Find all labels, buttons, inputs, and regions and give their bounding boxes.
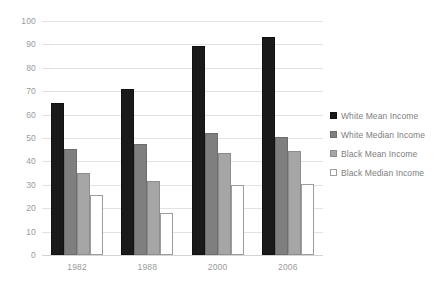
bar-chart: 0102030405060708090100 1982198820002006 … xyxy=(0,0,442,287)
bar-2000-series-0[interactable] xyxy=(192,46,205,255)
y-tick-label-80: 80 xyxy=(2,64,36,73)
bar-2006-series-0[interactable] xyxy=(262,37,275,255)
plot-area xyxy=(42,21,323,255)
x-tick-label-2000: 2000 xyxy=(208,263,228,272)
bar-1982-series-1[interactable] xyxy=(64,149,77,255)
y-tick-label-30: 30 xyxy=(2,181,36,190)
x-tick-label-1988: 1988 xyxy=(138,263,158,272)
bar-1988-series-2[interactable] xyxy=(147,181,160,255)
bar-2006-series-3[interactable] xyxy=(301,184,314,255)
legend-swatch-icon-0 xyxy=(330,112,337,119)
legend-item-0[interactable]: White Mean Income xyxy=(330,106,438,125)
y-tick-label-70: 70 xyxy=(2,87,36,96)
legend-label-2: Black Mean Income xyxy=(341,149,417,159)
bar-group-2006 xyxy=(262,21,314,255)
legend-label-0: White Mean Income xyxy=(341,111,418,121)
bar-2000-series-1[interactable] xyxy=(205,133,218,255)
bar-1988-series-1[interactable] xyxy=(134,144,147,255)
y-axis: 0102030405060708090100 xyxy=(0,21,36,255)
bar-1988-series-3[interactable] xyxy=(160,213,173,255)
bar-1982-series-3[interactable] xyxy=(90,195,103,255)
legend-item-2[interactable]: Black Mean Income xyxy=(330,144,438,163)
bar-group-1988 xyxy=(121,21,173,255)
y-tick-label-90: 90 xyxy=(2,40,36,49)
y-tick-label-60: 60 xyxy=(2,110,36,119)
bar-1982-series-0[interactable] xyxy=(51,103,64,255)
bar-2006-series-1[interactable] xyxy=(275,137,288,255)
legend-item-3[interactable]: Black Median Income xyxy=(330,163,438,182)
x-axis: 1982198820002006 xyxy=(42,258,323,280)
y-tick-label-20: 20 xyxy=(2,204,36,213)
legend-swatch-icon-1 xyxy=(330,131,337,138)
chart-legend: White Mean IncomeWhite Median IncomeBlac… xyxy=(330,106,438,182)
x-tick-label-2006: 2006 xyxy=(278,263,298,272)
legend-swatch-icon-3 xyxy=(330,169,337,176)
x-tick-label-1982: 1982 xyxy=(67,263,87,272)
y-tick-label-100: 100 xyxy=(2,17,36,26)
bar-2000-series-3[interactable] xyxy=(231,185,244,255)
y-tick-label-10: 10 xyxy=(2,227,36,236)
bar-2000-series-2[interactable] xyxy=(218,153,231,255)
legend-swatch-icon-2 xyxy=(330,150,337,157)
bar-group-2000 xyxy=(192,21,244,255)
bar-2006-series-2[interactable] xyxy=(288,151,301,255)
y-tick-label-0: 0 xyxy=(2,251,36,260)
y-tick-label-40: 40 xyxy=(2,157,36,166)
bar-1982-series-2[interactable] xyxy=(77,173,90,255)
legend-label-1: White Median Income xyxy=(341,130,425,140)
legend-item-1[interactable]: White Median Income xyxy=(330,125,438,144)
gridline-0 xyxy=(42,255,323,256)
bar-1988-series-0[interactable] xyxy=(121,89,134,255)
bar-group-1982 xyxy=(51,21,103,255)
y-tick-label-50: 50 xyxy=(2,134,36,143)
legend-label-3: Black Median Income xyxy=(341,168,424,178)
